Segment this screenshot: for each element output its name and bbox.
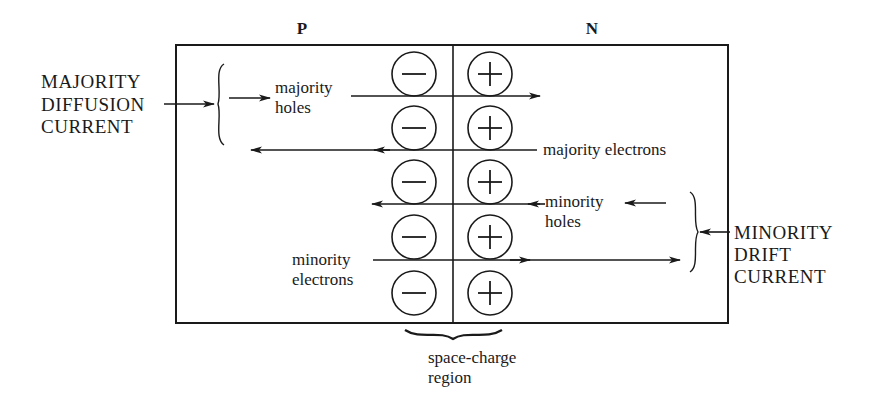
majority-diffusion-line-3: CURRENT <box>41 116 133 137</box>
negative-ion <box>392 271 436 315</box>
majority-diffusion-line-2: DIFFUSION <box>41 94 145 115</box>
majority-diffusion-line-1: MAJORITY <box>41 71 141 92</box>
junction-box <box>176 45 728 323</box>
negative-ions <box>392 52 436 315</box>
n-region-label: N <box>586 19 599 38</box>
minority-drift-line-1: MINORITY <box>734 222 833 243</box>
negative-ion <box>392 52 436 96</box>
p-region-label: P <box>297 19 307 38</box>
flow-majority-electrons: majority electrons <box>251 140 666 159</box>
minority-drift-line-3: CURRENT <box>734 266 826 287</box>
space-charge-line-2: region <box>428 368 472 387</box>
majority-electrons-label: majority electrons <box>543 140 666 159</box>
negative-ion <box>392 215 436 259</box>
majority-diffusion-brace <box>218 64 224 145</box>
positive-ion <box>468 160 512 204</box>
minority-holes-label-2: holes <box>545 212 581 231</box>
minority-drift-brace <box>690 192 698 272</box>
positive-ion <box>468 52 512 96</box>
majority-diffusion-annotation: MAJORITY DIFFUSION CURRENT <box>41 64 270 145</box>
minority-electrons-label: minority <box>292 250 351 269</box>
majority-holes-label: majority <box>275 78 333 97</box>
minority-drift-annotation: MINORITY DRIFT CURRENT <box>690 192 833 287</box>
positive-ions <box>468 52 512 315</box>
minority-holes-label: minority <box>545 192 604 211</box>
pn-junction-diagram: P N majority holes majority electrons mi… <box>0 0 890 405</box>
space-charge-brace <box>405 330 502 339</box>
space-charge-line-1: space-charge <box>428 348 516 367</box>
minority-electrons-label-2: electrons <box>292 270 353 289</box>
negative-ion <box>392 160 436 204</box>
negative-ion <box>392 106 436 150</box>
majority-holes-label-2: holes <box>275 98 311 117</box>
space-charge-annotation: space-charge region <box>405 330 516 387</box>
minority-drift-line-2: DRIFT <box>734 244 791 265</box>
positive-ion <box>468 271 512 315</box>
positive-ion <box>468 106 512 150</box>
positive-ion <box>468 215 512 259</box>
